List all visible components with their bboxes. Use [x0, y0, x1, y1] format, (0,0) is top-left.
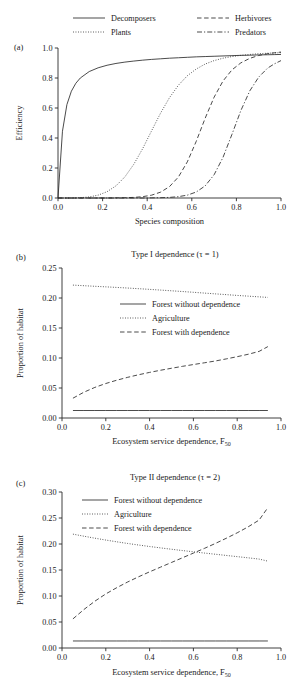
legend-label: Forest with dependence	[114, 524, 192, 533]
x-tick-label: 0.0	[53, 203, 63, 212]
x-tick-label: 0.4	[144, 423, 154, 432]
x-tick-label: 0.2	[101, 423, 111, 432]
y-tick-label: 0.00	[42, 644, 56, 653]
y-tick-label: 0.05	[42, 384, 56, 393]
x-tick-label: 1.0	[276, 203, 286, 212]
series-line-forest-with-dependence	[73, 347, 268, 399]
x-tick-label: 0.4	[142, 203, 152, 212]
legend-label: Herbivores	[235, 14, 271, 23]
y-axis-title: Efficiency	[15, 105, 24, 141]
panel-label: (c)	[16, 479, 26, 488]
y-tick-label: 0.25	[42, 514, 56, 523]
panel-title: Type I dependence (τ = 1)	[131, 250, 218, 259]
series-line-agriculture	[73, 534, 268, 561]
x-tick-label: 0.0	[57, 423, 67, 432]
y-tick-label: 0.15	[42, 324, 56, 333]
legend-label: Decomposers	[111, 14, 156, 23]
y-tick-label: 0.8	[42, 74, 52, 83]
legend-label: Agriculture	[114, 510, 152, 519]
y-tick-label: 0.25	[42, 264, 56, 273]
legend-label: Predators	[235, 28, 266, 37]
y-tick-label: 0.10	[42, 354, 56, 363]
x-tick-label: 0.6	[188, 423, 198, 432]
y-tick-label: 1.0	[42, 44, 52, 53]
y-tick-label: 0.15	[42, 566, 56, 575]
y-tick-label: 0.2	[42, 164, 52, 173]
panel-b: (b)Type I dependence (τ = 1)0.00.20.40.6…	[0, 232, 293, 454]
y-tick-label: 0.20	[42, 294, 56, 303]
x-tick-label: 0.8	[232, 653, 242, 662]
series-line-herbivores	[58, 52, 281, 198]
y-tick-label: 0.30	[42, 488, 56, 497]
x-tick-label: 0.8	[231, 203, 241, 212]
panel-title: Type II dependence (τ = 2)	[130, 473, 220, 482]
legend-label: Forest without dependence	[152, 300, 241, 309]
y-tick-label: 0.10	[42, 592, 56, 601]
x-axis-title: Ecosystem service dependence, F50	[112, 437, 231, 447]
x-axis-title: Species composition	[135, 217, 205, 226]
series-line-plants	[58, 53, 281, 198]
y-tick-label: 0.6	[42, 104, 52, 113]
series-line-predators	[58, 61, 281, 198]
legend-label: Agriculture	[152, 314, 190, 323]
panel-a: (a)0.00.20.40.60.81.00.00.20.40.60.81.0S…	[0, 0, 293, 232]
legend-label: Forest with dependence	[152, 328, 230, 337]
y-tick-label: 0.4	[42, 134, 52, 143]
legend-label: Plants	[111, 28, 131, 37]
y-tick-label: 0.00	[42, 414, 56, 423]
x-tick-label: 0.2	[97, 203, 107, 212]
panel-label: (a)	[14, 43, 24, 52]
series-line-decomposers	[58, 54, 281, 198]
x-axis-title: Ecosystem service dependence, F50	[112, 668, 231, 678]
series-line-agriculture	[73, 285, 268, 297]
y-axis-title: Proportion of habitat	[16, 307, 25, 377]
x-tick-label: 0.2	[101, 653, 111, 662]
x-tick-label: 1.0	[276, 653, 286, 662]
x-tick-label: 0.6	[187, 203, 197, 212]
panel-label: (b)	[16, 253, 26, 262]
x-tick-label: 0.8	[232, 423, 242, 432]
x-tick-label: 0.4	[144, 653, 154, 662]
y-tick-label: 0.05	[42, 618, 56, 627]
y-axis-title: Proportion of habitat	[16, 534, 25, 604]
x-tick-label: 0.6	[188, 653, 198, 662]
y-tick-label: 0.0	[42, 194, 52, 203]
legend-label: Forest without dependence	[114, 496, 203, 505]
x-tick-label: 1.0	[276, 423, 286, 432]
x-tick-label: 0.0	[57, 653, 67, 662]
panel-c: (c)Type II dependence (τ = 2)0.00.20.40.…	[0, 454, 293, 688]
figure-container: (a)0.00.20.40.60.81.00.00.20.40.60.81.0S…	[0, 0, 293, 688]
y-tick-label: 0.20	[42, 540, 56, 549]
